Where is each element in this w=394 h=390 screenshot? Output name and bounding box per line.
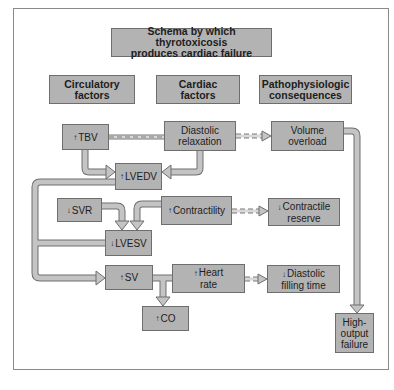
up-arrow-icon: ↑ (156, 313, 160, 324)
header-pathophysiologic-consequences: Pathophysiologic consequences (259, 75, 352, 104)
node-heart-rate: ↑Heart rate (172, 264, 245, 293)
node-label: SV (125, 272, 138, 283)
node-label: relaxation (178, 136, 221, 147)
down-arrow-icon: ↓ (278, 203, 282, 212)
header-line: Circulatory (64, 79, 119, 90)
arrowhead-to-sv (96, 271, 105, 285)
node-lvesv: ↓ LVESV (105, 230, 152, 256)
node-co: ↑ CO (142, 306, 189, 331)
node-label: Diastolic (287, 268, 325, 279)
node-label: reserve (287, 213, 320, 224)
node-label: LVESV (115, 238, 147, 249)
title-line-2: produces cardiac failure (131, 48, 252, 59)
node-high-output-failure: High- output failure (335, 313, 374, 353)
header-line: consequences (269, 90, 342, 101)
up-arrow-icon: ↑ (120, 272, 124, 283)
node-label: Contractility (173, 205, 225, 216)
node-sv: ↑ SV (105, 265, 153, 290)
node-svr: ↓ SVR (57, 198, 102, 222)
node-tbv: ↑ TBV (62, 124, 109, 150)
node-diastolic-relaxation: Diastolic relaxation (164, 121, 236, 151)
node-label-line1: ↓Diastolic (282, 268, 325, 280)
node-label-line1: ↓Contractile (278, 201, 331, 213)
header-line: Pathophysiologic (262, 79, 350, 90)
down-arrow-icon: ↓ (282, 270, 286, 279)
header-cardiac-factors: Cardiac factors (156, 75, 240, 104)
title-line-1: Schema by which thyrotoxicosis (112, 26, 271, 48)
node-contractility: ↑ Contractility (161, 196, 232, 225)
header-line: Cardiac (179, 79, 218, 90)
header-line: factors (74, 90, 109, 101)
up-arrow-icon: ↑ (194, 269, 198, 278)
down-arrow-icon: ↓ (67, 205, 71, 216)
up-arrow-icon: ↑ (168, 205, 172, 216)
node-label: overload (288, 136, 326, 147)
up-arrow-icon: ↑ (73, 132, 77, 143)
node-label: failure (341, 339, 368, 350)
node-label: TBV (78, 132, 97, 143)
header-line: factors (180, 90, 215, 101)
node-contractile-reserve: ↓Contractile reserve (268, 198, 340, 226)
node-label: rate (200, 279, 217, 290)
node-label: CO (161, 313, 176, 324)
node-label: Heart (199, 267, 223, 278)
node-label: High- (343, 317, 367, 328)
node-label: Diastolic (181, 125, 219, 136)
node-label-line1: ↑Heart (194, 267, 223, 279)
down-arrow-icon: ↓ (110, 238, 114, 249)
node-label: SVR (72, 205, 93, 216)
arrowhead-contractility-to-lvesv (130, 221, 144, 230)
arrowhead-dashed-contractile-reserve (259, 206, 268, 216)
diagram-title: Schema by which thyrotoxicosis produces … (111, 28, 272, 57)
node-diastolic-filling-time: ↓Diastolic filling time (267, 265, 340, 293)
node-volume-overload: Volume overload (271, 121, 344, 151)
arrowhead-dashed-filling-time (258, 274, 267, 284)
arrowhead-to-high-output-failure (350, 305, 364, 313)
arrowhead-svr-to-lvesv (115, 221, 129, 230)
arrowhead-dashed-volume-overload (262, 131, 271, 141)
node-label: filling time (281, 280, 325, 291)
up-arrow-icon: ↑ (120, 171, 124, 182)
header-circulatory-factors: Circulatory factors (49, 75, 135, 104)
node-label: Volume (291, 125, 324, 136)
arrowhead-to-lvedv-left (106, 165, 115, 179)
arrowhead-to-co (156, 297, 170, 306)
node-label: Contractile (283, 201, 331, 212)
node-label: output (341, 328, 369, 339)
node-label: LVEDV (125, 171, 157, 182)
arrowhead-to-lvedv-right (162, 165, 171, 179)
node-lvedv: ↑ LVEDV (115, 163, 162, 190)
